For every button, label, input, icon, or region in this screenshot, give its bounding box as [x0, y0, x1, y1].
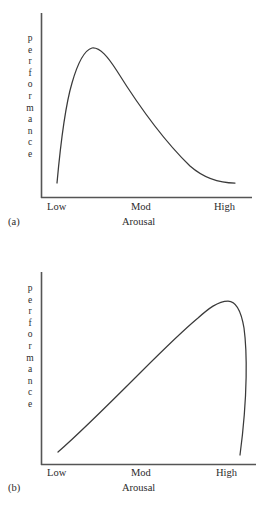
y-axis-label-a-char: c: [22, 137, 38, 149]
y-axis-label-b-char: a: [22, 364, 38, 376]
x-tick-high-b: High: [216, 467, 237, 478]
y-axis-label-b: performance: [22, 283, 38, 411]
y-axis-label-b-char: c: [22, 387, 38, 399]
x-tick-low-b: Low: [47, 467, 66, 478]
y-axis-label-a-char: r: [22, 56, 38, 68]
chart-panel-a: performance Low Mod High Arousal (a): [0, 0, 280, 255]
panel-caption-b: (b): [8, 482, 20, 493]
y-axis-label-a-char: f: [22, 68, 38, 80]
y-axis-label-a-char: n: [22, 126, 38, 138]
chart-panel-b: performance Low Mod High Arousal (b): [0, 255, 280, 522]
x-tick-high-a: High: [214, 201, 235, 212]
panel-caption-a: (a): [8, 216, 20, 227]
y-axis-label-b-char: r: [22, 341, 38, 353]
y-axis-label-a-char: e: [22, 149, 38, 161]
x-tick-mod-a: Mod: [131, 201, 151, 212]
y-axis-label-b-char: p: [22, 283, 38, 295]
y-axis-label-b-char: n: [22, 376, 38, 388]
y-axis-label-a-char: m: [22, 103, 38, 115]
y-axis-label-a: performance: [22, 33, 38, 161]
curve-b: [58, 301, 246, 455]
curve-a: [57, 48, 235, 183]
y-axis-label-a-char: r: [22, 91, 38, 103]
x-axis-label-a: Arousal: [122, 216, 155, 227]
y-axis-label-b-char: e: [22, 295, 38, 307]
y-axis-label-b-char: m: [22, 353, 38, 365]
y-axis-label-a-char: a: [22, 114, 38, 126]
x-tick-mod-b: Mod: [131, 467, 151, 478]
y-axis-label-a-char: o: [22, 79, 38, 91]
y-axis-label-b-char: e: [22, 399, 38, 411]
y-axis-label-a-char: e: [22, 45, 38, 57]
y-axis-label-b-char: f: [22, 318, 38, 330]
x-tick-low-a: Low: [47, 201, 66, 212]
y-axis-label-a-char: p: [22, 33, 38, 45]
y-axis-label-b-char: o: [22, 329, 38, 341]
y-axis-label-b-char: r: [22, 306, 38, 318]
x-axis-label-b: Arousal: [122, 482, 155, 493]
